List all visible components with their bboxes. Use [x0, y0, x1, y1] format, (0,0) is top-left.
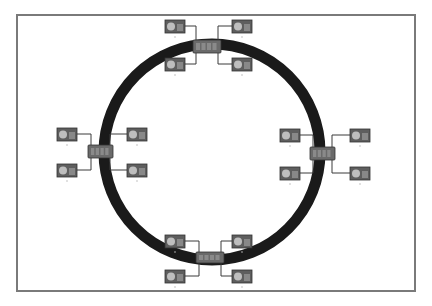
monitor-detail	[177, 24, 183, 31]
computer-icon	[127, 128, 147, 146]
ring-backbone	[104, 44, 320, 260]
wire	[300, 135, 313, 147]
wire	[110, 158, 127, 170]
screen-glow	[167, 61, 175, 69]
computer-label	[359, 145, 361, 147]
computer-label	[289, 145, 291, 147]
hub-port	[199, 255, 203, 260]
computer-label	[136, 144, 138, 146]
screen-glow	[167, 23, 175, 31]
screen-glow	[234, 238, 242, 246]
wire	[185, 241, 199, 252]
monitor-detail	[69, 168, 75, 175]
wire	[332, 160, 350, 173]
hub-port	[207, 43, 211, 50]
computer-icon	[57, 128, 77, 146]
computer-icon	[232, 20, 252, 38]
computer-icon	[232, 270, 252, 288]
monitor-detail	[292, 171, 298, 178]
wire	[110, 134, 127, 145]
screen-glow	[352, 132, 360, 140]
monitor-detail	[69, 132, 75, 139]
hub-port	[202, 43, 206, 50]
screen-glow	[282, 170, 290, 178]
computer-icon	[280, 167, 300, 185]
computer-icon	[165, 270, 185, 288]
wire	[185, 53, 196, 64]
computer-label	[289, 183, 291, 185]
monitor-detail	[177, 239, 183, 246]
screen-glow	[282, 132, 290, 140]
wire	[221, 241, 232, 252]
computer-icon	[165, 20, 185, 38]
monitor-detail	[244, 24, 250, 31]
hub-port	[196, 43, 200, 50]
monitor-detail	[177, 274, 183, 281]
hub-port	[213, 43, 217, 50]
wire	[185, 263, 199, 276]
wire	[77, 134, 91, 145]
computer-icon	[165, 58, 185, 76]
computer-label	[66, 144, 68, 146]
computer-icon	[127, 164, 147, 182]
wire	[218, 26, 232, 40]
wire	[77, 158, 91, 170]
computer-label	[136, 180, 138, 182]
screen-glow	[352, 170, 360, 178]
monitor-detail	[139, 168, 145, 175]
screen-glow	[129, 167, 137, 175]
computer-label	[174, 286, 176, 288]
wire	[332, 135, 350, 147]
hub-port	[323, 150, 326, 157]
hub-port	[216, 255, 220, 260]
hub-port	[327, 150, 330, 157]
monitor-detail	[244, 274, 250, 281]
computer-label	[241, 74, 243, 76]
screen-glow	[129, 131, 137, 139]
computer-label	[174, 36, 176, 38]
hub-port	[205, 255, 209, 260]
computer-label	[174, 74, 176, 76]
ring-network-diagram	[0, 0, 432, 306]
monitor-detail	[362, 171, 368, 178]
computer-icon	[350, 129, 370, 147]
hub-port	[101, 148, 104, 155]
computer-label	[359, 183, 361, 185]
computer-label	[241, 286, 243, 288]
computer-icon	[280, 129, 300, 147]
hub-port	[318, 150, 321, 157]
wire	[185, 26, 196, 40]
hub-port	[96, 148, 99, 155]
monitor-detail	[244, 239, 250, 246]
screen-glow	[234, 61, 242, 69]
computer-label	[241, 36, 243, 38]
screen-glow	[234, 273, 242, 281]
computer-label	[174, 251, 176, 253]
hub-port	[210, 255, 214, 260]
hub-port	[91, 148, 94, 155]
screen-glow	[59, 167, 67, 175]
monitor-detail	[139, 132, 145, 139]
hub-port	[105, 148, 108, 155]
computer-icon	[350, 167, 370, 185]
wire	[218, 53, 232, 64]
monitor-detail	[362, 133, 368, 140]
screen-glow	[59, 131, 67, 139]
cluster-right	[280, 129, 370, 185]
computer-icon	[232, 58, 252, 76]
wire	[300, 160, 313, 173]
computer-icon	[57, 164, 77, 182]
screen-glow	[167, 238, 175, 246]
computer-label	[66, 180, 68, 182]
hub-port	[313, 150, 316, 157]
monitor-detail	[177, 62, 183, 69]
monitor-detail	[292, 133, 298, 140]
computer-label	[241, 251, 243, 253]
screen-glow	[167, 273, 175, 281]
monitor-detail	[244, 62, 250, 69]
screen-glow	[234, 23, 242, 31]
